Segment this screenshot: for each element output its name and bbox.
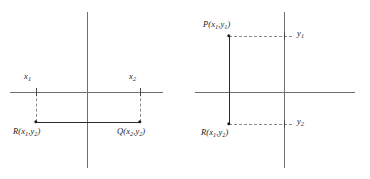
x-axis-right bbox=[195, 92, 355, 93]
label-R2-y-sub: 2 bbox=[222, 131, 225, 138]
point-R-marker bbox=[34, 120, 37, 123]
dashed-run-y1 bbox=[229, 36, 292, 37]
label-y2: y2 bbox=[297, 117, 304, 126]
segment-PR bbox=[229, 36, 230, 124]
label-point-Q: Q(x2,y2) bbox=[117, 127, 145, 136]
label-R2-x-sub: 1 bbox=[213, 131, 216, 138]
tick-x2 bbox=[140, 88, 141, 96]
label-P-close-paren: ) bbox=[227, 19, 230, 29]
y-axis-left bbox=[87, 12, 88, 168]
label-P-y-sub: 1 bbox=[224, 23, 227, 30]
label-P-x-sub: 1 bbox=[215, 23, 218, 30]
label-Q-y-sub: 2 bbox=[139, 130, 142, 137]
label-y1: y1 bbox=[297, 29, 304, 38]
label-x1: x1 bbox=[24, 72, 31, 81]
vertical-segment-diagram: P(x1,y1) y1 y2 R(x1,y2) bbox=[185, 0, 370, 179]
point-P-marker bbox=[227, 34, 230, 37]
figure-root: x1 x2 R(x1,y2) Q(x2,y2) P(x1,y1) bbox=[0, 0, 370, 179]
label-Q-close-paren: ) bbox=[142, 126, 145, 136]
label-y2-sub: 2 bbox=[301, 120, 304, 127]
label-R-x-sub: 1 bbox=[25, 130, 28, 137]
label-y1-sub: 1 bbox=[301, 32, 304, 39]
segment-RQ bbox=[36, 122, 140, 123]
label-x2: x2 bbox=[129, 72, 136, 81]
label-R2-close-paren: ) bbox=[225, 127, 228, 137]
tick-x1 bbox=[36, 88, 37, 96]
label-x2-sub: 2 bbox=[133, 75, 136, 82]
dashed-run-y2 bbox=[229, 124, 292, 125]
point-Q-marker bbox=[138, 120, 141, 123]
point-R-marker-right bbox=[227, 122, 230, 125]
label-R-close-paren: ) bbox=[37, 126, 40, 136]
tick-y2 bbox=[284, 120, 285, 128]
label-x1-sub: 1 bbox=[28, 75, 31, 82]
label-point-R-right: R(x1,y2) bbox=[201, 128, 228, 137]
tick-y1 bbox=[284, 32, 285, 40]
label-Q-x-sub: 2 bbox=[130, 130, 133, 137]
label-R-y-sub: 2 bbox=[34, 130, 37, 137]
horizontal-segment-diagram: x1 x2 R(x1,y2) Q(x2,y2) bbox=[0, 0, 185, 179]
label-point-R-left: R(x1,y2) bbox=[13, 127, 40, 136]
label-point-P: P(x1,y1) bbox=[203, 20, 230, 29]
